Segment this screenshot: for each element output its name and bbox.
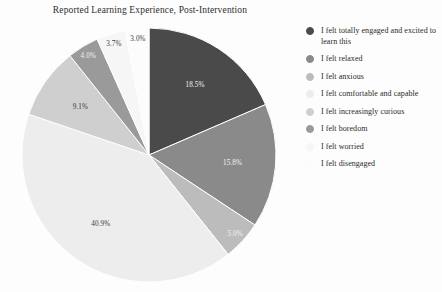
legend-item[interactable]: I felt boredom [306,124,442,135]
legend-swatch-icon [306,27,314,35]
pie-slice-label: 3.0% [130,35,145,43]
legend-swatch-icon [306,108,314,116]
legend: I felt totally engaged and excited to le… [306,26,442,177]
legend-item[interactable]: I felt increasingly curious [306,107,442,118]
legend-item-label: I felt worried [321,142,364,153]
legend-item-label: I felt relaxed [321,54,363,65]
pie-slices [22,28,276,282]
pie-svg: 18.5%15.8%5.0%40.9%9.1%4.0%3.7%3.0% [18,26,280,284]
pie-slice-label: 4.0% [81,52,96,60]
legend-item-label: I felt comfortable and capable [321,89,418,100]
legend-item[interactable]: I felt comfortable and capable [306,89,442,100]
pie-slice-label: 5.0% [228,230,243,238]
legend-swatch-icon [306,160,314,168]
plot-area: 18.5%15.8%5.0%40.9%9.1%4.0%3.7%3.0% [6,18,302,286]
legend-swatch-icon [306,143,314,151]
pie-wrapper: 18.5%15.8%5.0%40.9%9.1%4.0%3.7%3.0% [18,26,280,284]
pie-chart-figure: Reported Learning Experience, Post-Inter… [0,0,442,292]
legend-item-label: I felt increasingly curious [321,107,404,118]
legend-item[interactable]: I felt anxious [306,72,442,83]
legend-item-label: I felt disengaged [321,159,375,170]
legend-item-label: I felt totally engaged and excited to le… [321,26,442,47]
legend-item[interactable]: I felt totally engaged and excited to le… [306,26,442,47]
pie-slice-label: 18.5% [185,81,204,89]
legend-item-label: I felt anxious [321,72,364,83]
legend-item[interactable]: I felt disengaged [306,159,442,170]
legend-swatch-icon [306,55,314,63]
legend-item[interactable]: I felt worried [306,142,442,153]
pie-slice-label: 9.1% [73,103,88,111]
chart-title: Reported Learning Experience, Post-Inter… [0,5,300,15]
legend-item[interactable]: I felt relaxed [306,54,442,65]
pie-slice-label: 3.7% [106,40,121,48]
pie-slice-label: 40.9% [91,220,110,228]
legend-swatch-icon [306,73,314,81]
legend-swatch-icon [306,125,314,133]
legend-item-label: I felt boredom [321,124,367,135]
pie-slice-label: 15.8% [223,159,242,167]
legend-swatch-icon [306,90,314,98]
